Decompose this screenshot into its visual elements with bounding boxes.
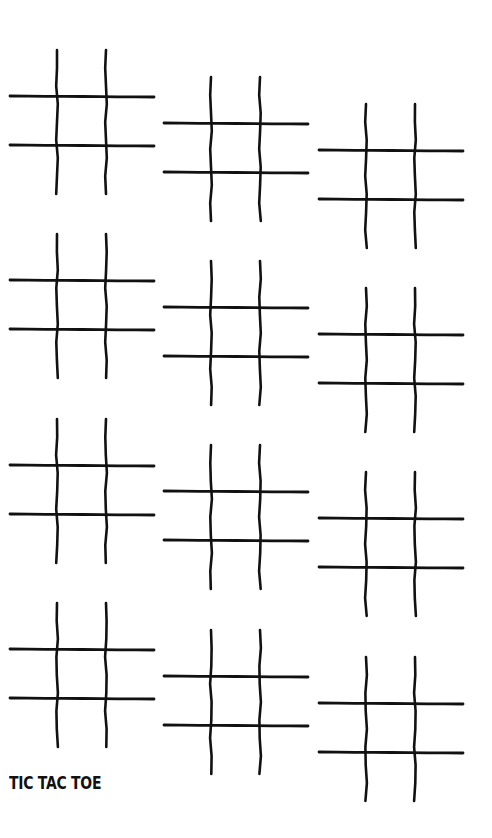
board-8-cell-r3-c1[interactable] bbox=[164, 541, 211, 591]
board-10-cell-r3-c1[interactable] bbox=[10, 699, 57, 749]
board-3-cell-r2-c2[interactable] bbox=[367, 151, 415, 199]
board-7-cell-r3-c1[interactable] bbox=[10, 515, 57, 565]
board-5-cell-r1-c2[interactable] bbox=[212, 259, 260, 307]
board-4-cell-r3-c2[interactable] bbox=[58, 330, 106, 380]
board-11-cell-r3-c2[interactable] bbox=[212, 726, 260, 776]
board-7-cell-r3-c3[interactable] bbox=[107, 515, 156, 565]
board-9-cell-r3-c2[interactable] bbox=[367, 568, 415, 618]
board-2-cell-r1-c2[interactable] bbox=[212, 75, 260, 123]
board-7-cell-r1-c2[interactable] bbox=[58, 417, 106, 465]
board-3-cell-r1-c1[interactable] bbox=[319, 102, 366, 150]
board-1-cell-r1-c3[interactable] bbox=[107, 48, 156, 96]
board-8-cell-r1-c2[interactable] bbox=[212, 443, 260, 491]
board-12-cell-r2-c1[interactable] bbox=[319, 704, 366, 752]
board-7-cell-r2-c1[interactable] bbox=[10, 466, 57, 514]
board-10-cell-r1-c1[interactable] bbox=[10, 601, 57, 649]
board-2-cell-r3-c2[interactable] bbox=[212, 173, 260, 223]
board-6-cell-r3-c3[interactable] bbox=[416, 384, 465, 434]
board-6-cell-r2-c3[interactable] bbox=[416, 335, 465, 383]
board-5-cell-r3-c2[interactable] bbox=[212, 357, 260, 407]
board-9-cell-r2-c1[interactable] bbox=[319, 519, 366, 567]
board-9-cell-r2-c3[interactable] bbox=[416, 519, 465, 567]
board-11-cell-r1-c2[interactable] bbox=[212, 628, 260, 676]
board-4-cell-r3-c1[interactable] bbox=[10, 330, 57, 380]
board-4-cell-r3-c3[interactable] bbox=[107, 330, 156, 380]
board-11-cell-r2-c2[interactable] bbox=[212, 677, 260, 725]
board-12-cell-r1-c1[interactable] bbox=[319, 655, 366, 703]
board-8-cell-r2-c3[interactable] bbox=[261, 492, 310, 540]
board-9-cell-r2-c2[interactable] bbox=[367, 519, 415, 567]
board-1-cell-r3-c2[interactable] bbox=[58, 146, 106, 196]
board-7-cell-r1-c1[interactable] bbox=[10, 417, 57, 465]
board-2-cell-r1-c3[interactable] bbox=[261, 75, 310, 123]
board-7-cell-r3-c2[interactable] bbox=[58, 515, 106, 565]
board-12-cell-r3-c3[interactable] bbox=[416, 753, 465, 803]
board-8-cell-r1-c3[interactable] bbox=[261, 443, 310, 491]
board-9-cell-r1-c2[interactable] bbox=[367, 470, 415, 518]
board-2-cell-r3-c3[interactable] bbox=[261, 173, 310, 223]
board-6-cell-r2-c1[interactable] bbox=[319, 335, 366, 383]
board-11-cell-r1-c3[interactable] bbox=[261, 628, 310, 676]
board-3-cell-r2-c3[interactable] bbox=[416, 151, 465, 199]
board-6-cell-r1-c1[interactable] bbox=[319, 286, 366, 334]
board-6-cell-r3-c2[interactable] bbox=[367, 384, 415, 434]
board-12-cell-r1-c3[interactable] bbox=[416, 655, 465, 703]
board-12-cell-r2-c2[interactable] bbox=[367, 704, 415, 752]
board-3-cell-r3-c1[interactable] bbox=[319, 200, 366, 250]
board-1-cell-r3-c1[interactable] bbox=[10, 146, 57, 196]
board-11-cell-r3-c1[interactable] bbox=[164, 726, 211, 776]
board-10-cell-r3-c2[interactable] bbox=[58, 699, 106, 749]
board-6-cell-r1-c2[interactable] bbox=[367, 286, 415, 334]
board-12-cell-r3-c1[interactable] bbox=[319, 753, 366, 803]
board-9-cell-r1-c3[interactable] bbox=[416, 470, 465, 518]
board-2-cell-r3-c1[interactable] bbox=[164, 173, 211, 223]
board-11-cell-r3-c3[interactable] bbox=[261, 726, 310, 776]
board-11-cell-r2-c3[interactable] bbox=[261, 677, 310, 725]
board-10-cell-r2-c3[interactable] bbox=[107, 650, 156, 698]
board-2-cell-r2-c1[interactable] bbox=[164, 124, 211, 172]
board-3-cell-r1-c3[interactable] bbox=[416, 102, 465, 150]
board-1-cell-r2-c2[interactable] bbox=[58, 97, 106, 145]
board-3-cell-r1-c2[interactable] bbox=[367, 102, 415, 150]
board-10-cell-r1-c2[interactable] bbox=[58, 601, 106, 649]
board-5-cell-r1-c1[interactable] bbox=[164, 259, 211, 307]
board-12-cell-r1-c2[interactable] bbox=[367, 655, 415, 703]
board-5-cell-r2-c3[interactable] bbox=[261, 308, 310, 356]
board-10-cell-r1-c3[interactable] bbox=[107, 601, 156, 649]
board-7-cell-r1-c3[interactable] bbox=[107, 417, 156, 465]
board-4-cell-r1-c2[interactable] bbox=[58, 232, 106, 280]
board-8-cell-r2-c1[interactable] bbox=[164, 492, 211, 540]
board-5-cell-r3-c3[interactable] bbox=[261, 357, 310, 407]
board-10-cell-r2-c2[interactable] bbox=[58, 650, 106, 698]
board-12-cell-r3-c2[interactable] bbox=[367, 753, 415, 803]
board-3-cell-r3-c3[interactable] bbox=[416, 200, 465, 250]
board-8-cell-r3-c2[interactable] bbox=[212, 541, 260, 591]
board-5-cell-r2-c2[interactable] bbox=[212, 308, 260, 356]
board-4-cell-r2-c1[interactable] bbox=[10, 281, 57, 329]
board-6-cell-r1-c3[interactable] bbox=[416, 286, 465, 334]
board-11-cell-r1-c1[interactable] bbox=[164, 628, 211, 676]
board-9-cell-r3-c1[interactable] bbox=[319, 568, 366, 618]
board-1-cell-r2-c1[interactable] bbox=[10, 97, 57, 145]
board-11-cell-r2-c1[interactable] bbox=[164, 677, 211, 725]
board-12-cell-r2-c3[interactable] bbox=[416, 704, 465, 752]
board-4-cell-r1-c3[interactable] bbox=[107, 232, 156, 280]
board-1-cell-r1-c2[interactable] bbox=[58, 48, 106, 96]
board-8-cell-r2-c2[interactable] bbox=[212, 492, 260, 540]
board-2-cell-r1-c1[interactable] bbox=[164, 75, 211, 123]
board-4-cell-r1-c1[interactable] bbox=[10, 232, 57, 280]
board-7-cell-r2-c3[interactable] bbox=[107, 466, 156, 514]
board-2-cell-r2-c2[interactable] bbox=[212, 124, 260, 172]
board-4-cell-r2-c3[interactable] bbox=[107, 281, 156, 329]
board-8-cell-r1-c1[interactable] bbox=[164, 443, 211, 491]
board-10-cell-r3-c3[interactable] bbox=[107, 699, 156, 749]
board-9-cell-r1-c1[interactable] bbox=[319, 470, 366, 518]
board-5-cell-r1-c3[interactable] bbox=[261, 259, 310, 307]
board-4-cell-r2-c2[interactable] bbox=[58, 281, 106, 329]
board-10-cell-r2-c1[interactable] bbox=[10, 650, 57, 698]
board-1-cell-r2-c3[interactable] bbox=[107, 97, 156, 145]
board-9-cell-r3-c3[interactable] bbox=[416, 568, 465, 618]
board-3-cell-r3-c2[interactable] bbox=[367, 200, 415, 250]
board-5-cell-r2-c1[interactable] bbox=[164, 308, 211, 356]
board-3-cell-r2-c1[interactable] bbox=[319, 151, 366, 199]
